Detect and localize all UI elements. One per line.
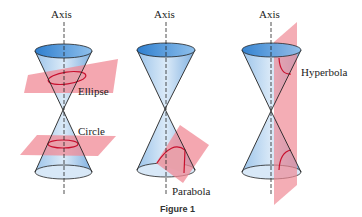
ellipse-label: Ellipse bbox=[78, 86, 109, 97]
axis-label-2: Axis bbox=[154, 9, 175, 20]
cone-hyperbola bbox=[242, 22, 301, 205]
circle-label: Circle bbox=[78, 126, 105, 137]
axis-label-1: Axis bbox=[51, 9, 72, 20]
cone-ellipse-circle bbox=[20, 22, 118, 195]
parabola-label: Parabola bbox=[172, 186, 210, 197]
figure-caption: Figure 1 bbox=[160, 204, 195, 214]
cone-parabola bbox=[137, 22, 209, 195]
axis-label-3: Axis bbox=[259, 9, 280, 20]
hyperbola-label: Hyperbola bbox=[301, 67, 347, 78]
